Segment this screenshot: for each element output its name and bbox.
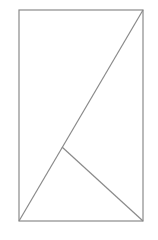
perpendicular-line bbox=[62, 147, 143, 221]
diagram-canvas bbox=[0, 0, 158, 240]
diagonal-line bbox=[19, 10, 143, 221]
geometry-figure bbox=[0, 0, 158, 240]
